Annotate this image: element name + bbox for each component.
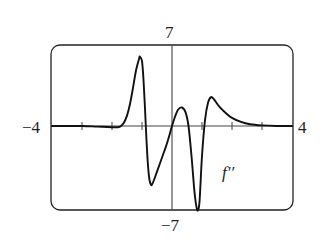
y-min-label: −7 <box>161 217 179 234</box>
curve-label: f′′ <box>222 164 234 181</box>
x-max-label: 4 <box>298 119 307 136</box>
x-min-label: −4 <box>22 119 40 136</box>
chart-plot-area <box>0 0 328 251</box>
y-max-label: 7 <box>165 24 174 41</box>
